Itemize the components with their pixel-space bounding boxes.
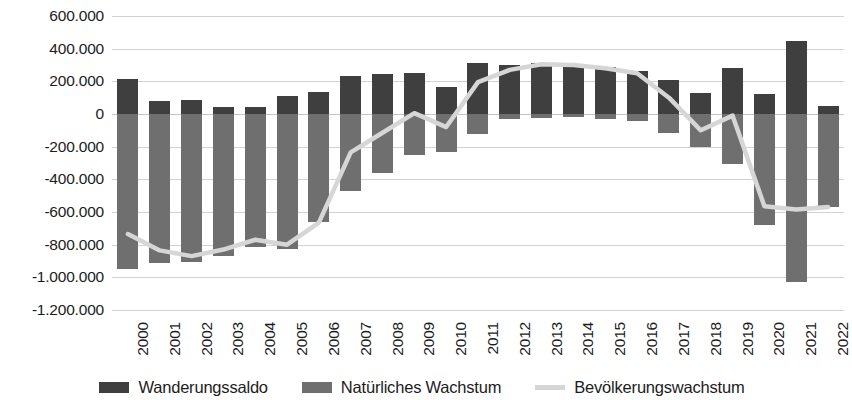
legend-swatch-icon [302,382,332,393]
x-axis-tick-label: 2008 [389,322,407,356]
x-axis-tick-label: 2016 [643,322,661,356]
x-axis-tick-label: 2010 [452,322,470,356]
x-axis-tick-label: 2003 [229,322,247,356]
x-axis-tick-label: 2020 [770,322,788,356]
bar-natuerliches-wachstum [277,114,298,249]
bar-natuerliches-wachstum [722,114,743,164]
bar-group [786,0,807,320]
bar-group [531,0,552,320]
bar-wanderungssaldo [245,107,266,114]
y-axis-tick-label: -1.000.000 [32,268,104,286]
bar-group [436,0,457,320]
bar-natuerliches-wachstum [436,114,457,152]
bar-natuerliches-wachstum [531,114,552,118]
bar-natuerliches-wachstum [595,114,616,119]
x-axis-tick-label: 2001 [166,322,184,356]
x-axis: 2000200120022003200420052006200720082009… [112,320,844,376]
bar-wanderungssaldo [754,94,775,114]
bar-group [499,0,520,320]
bar-wanderungssaldo [690,93,711,114]
bar-natuerliches-wachstum [690,114,711,147]
bar-wanderungssaldo [722,68,743,114]
y-axis-tick-label: 200.000 [49,72,104,90]
y-axis-tick-label: 600.000 [49,7,104,25]
bar-group [245,0,266,320]
bar-group [467,0,488,320]
y-axis-tick-label: -1.200.000 [32,301,104,319]
bar-group [658,0,679,320]
legend-item-label: Bevölkerungswachstum [574,378,744,397]
x-axis-tick-label: 2009 [420,322,438,356]
bar-group [627,0,648,320]
bar-wanderungssaldo [404,73,425,114]
plot-area [112,0,844,320]
bar-natuerliches-wachstum [181,114,202,262]
bar-natuerliches-wachstum [340,114,361,191]
y-axis-tick-label: 400.000 [49,40,104,58]
chart-legend: WanderungssaldoNatürliches WachstumBevöl… [0,374,844,400]
bar-wanderungssaldo [658,80,679,114]
x-axis-tick-label: 2017 [675,322,693,356]
y-axis-tick-label: -600.000 [44,203,104,221]
bar-group [213,0,234,320]
bar-natuerliches-wachstum [404,114,425,155]
bar-group [117,0,138,320]
x-axis-tick-label: 2002 [198,322,216,356]
x-axis-tick-label: 2006 [325,322,343,356]
bar-natuerliches-wachstum [658,114,679,133]
bar-natuerliches-wachstum [308,114,329,222]
bar-group [690,0,711,320]
bar-wanderungssaldo [786,41,807,115]
x-axis-tick-label: 2015 [611,322,629,356]
bar-natuerliches-wachstum [818,114,839,207]
bar-natuerliches-wachstum [627,114,648,121]
y-axis-tick-label: -800.000 [44,236,104,254]
bar-wanderungssaldo [531,63,552,114]
bar-group [340,0,361,320]
bar-group [277,0,298,320]
bar-wanderungssaldo [627,71,648,114]
x-axis-tick-label: 2012 [516,322,534,356]
legend-swatch-icon [535,385,565,390]
bar-group [722,0,743,320]
y-axis-tick-label: 0 [96,105,104,123]
bar-wanderungssaldo [499,65,520,114]
bar-natuerliches-wachstum [499,114,520,119]
bar-natuerliches-wachstum [245,114,266,247]
x-axis-tick-label: 2007 [357,322,375,356]
y-axis-tick-label: -400.000 [44,170,104,188]
bar-natuerliches-wachstum [149,114,170,263]
bar-group [404,0,425,320]
bar-group [149,0,170,320]
bar-wanderungssaldo [277,96,298,114]
bar-wanderungssaldo [818,106,839,114]
bar-natuerliches-wachstum [786,114,807,282]
bar-group [595,0,616,320]
y-axis: 600.000400.000200.0000-200.000-400.000-6… [0,0,112,320]
legend-swatch-icon [99,382,129,393]
bar-series-layer [112,0,844,320]
bar-wanderungssaldo [563,65,584,114]
bar-natuerliches-wachstum [117,114,138,269]
bar-wanderungssaldo [467,63,488,114]
bar-wanderungssaldo [213,107,234,114]
x-axis-tick-label: 2011 [484,322,502,355]
legend-item[interactable]: Bevölkerungswachstum [535,378,744,397]
x-axis-tick-label: 2022 [834,322,852,356]
bar-wanderungssaldo [436,87,457,114]
bar-natuerliches-wachstum [563,114,584,117]
bar-wanderungssaldo [372,74,393,114]
x-axis-tick-label: 2004 [261,322,279,356]
bar-natuerliches-wachstum [754,114,775,225]
x-axis-tick-label: 2014 [579,322,597,356]
legend-item[interactable]: Wanderungssaldo [99,378,267,397]
x-axis-tick-label: 2013 [548,322,566,356]
x-axis-tick-label: 2018 [707,322,725,356]
bar-natuerliches-wachstum [372,114,393,173]
x-axis-tick-label: 2021 [802,322,820,356]
bar-group [754,0,775,320]
legend-item-label: Wanderungssaldo [138,378,267,397]
legend-item[interactable]: Natürliches Wachstum [302,378,501,397]
y-axis-tick-label: -200.000 [44,138,104,156]
